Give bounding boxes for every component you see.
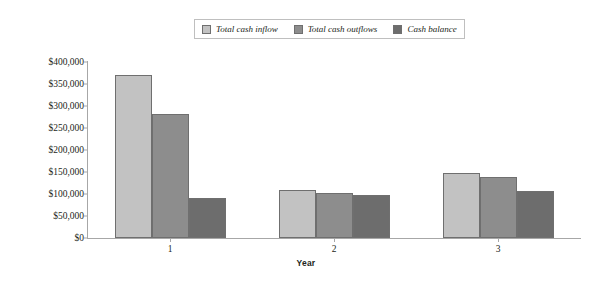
y-axis-tick-label: $400,000: [48, 57, 88, 67]
y-axis-tick: $50,000: [53, 211, 88, 221]
legend-item-label: Cash balance: [407, 24, 456, 34]
y-axis-tick-label: $150,000: [48, 167, 88, 177]
y-axis-tick-label: $350,000: [48, 79, 88, 89]
x-axis-tick-mark: [170, 238, 171, 242]
bar: [279, 190, 316, 238]
bar: [152, 114, 189, 238]
y-axis-tick-mark: [84, 128, 88, 129]
x-axis-tick-label: 2: [332, 244, 337, 255]
bar: [115, 75, 152, 238]
y-axis-tick-label: $200,000: [48, 145, 88, 155]
legend-item-label: Total cash inflow: [216, 24, 278, 34]
legend-item-total-cash-outflows: Total cash outflows: [294, 24, 378, 34]
x-axis-title: Year: [0, 258, 612, 268]
bar: [189, 198, 226, 238]
bar-group: [443, 173, 554, 238]
y-axis-tick: $150,000: [48, 167, 88, 177]
y-axis-tick: $100,000: [48, 189, 88, 199]
bar: [353, 195, 390, 238]
chart-legend: Total cash inflow Total cash outflows Ca…: [194, 19, 465, 39]
x-axis-tick-mark: [498, 238, 499, 242]
legend-item-total-cash-inflow: Total cash inflow: [202, 24, 278, 34]
legend-item-cash-balance: Cash balance: [393, 24, 456, 34]
legend-swatch-icon: [393, 25, 402, 34]
y-axis-tick: $350,000: [48, 79, 88, 89]
legend-item-label: Total cash outflows: [308, 24, 378, 34]
x-axis-tick-mark: [334, 238, 335, 242]
y-axis-tick-label: $250,000: [48, 123, 88, 133]
x-axis-tick-label: 1: [168, 244, 173, 255]
y-axis-tick-mark: [84, 172, 88, 173]
y-axis-tick-mark: [84, 150, 88, 151]
y-axis-tick: $300,000: [48, 101, 88, 111]
y-axis-tick-label: $300,000: [48, 101, 88, 111]
x-axis-tick-label: 3: [496, 244, 501, 255]
y-axis-tick-mark: [84, 238, 88, 239]
bar: [316, 193, 353, 238]
y-axis-tick-label: $50,000: [53, 211, 88, 221]
y-axis-tick-mark: [84, 106, 88, 107]
bar: [517, 191, 554, 238]
legend-swatch-icon: [294, 25, 303, 34]
legend-swatch-icon: [202, 25, 211, 34]
bar: [443, 173, 480, 238]
y-axis-tick-mark: [84, 62, 88, 63]
y-axis-tick-label: $100,000: [48, 189, 88, 199]
y-axis-tick-mark: [84, 216, 88, 217]
bar-group: [279, 190, 390, 238]
bar-chart: Total cash inflow Total cash outflows Ca…: [0, 0, 612, 287]
y-axis-tick-mark: [84, 84, 88, 85]
y-axis-tick-mark: [84, 194, 88, 195]
bar-group: [115, 75, 226, 238]
plot-area: $0$50,000$100,000$150,000$200,000$250,00…: [88, 62, 580, 238]
y-axis-tick: $400,000: [48, 57, 88, 67]
y-axis-tick: $250,000: [48, 123, 88, 133]
y-axis-tick: $200,000: [48, 145, 88, 155]
bar: [480, 177, 517, 238]
